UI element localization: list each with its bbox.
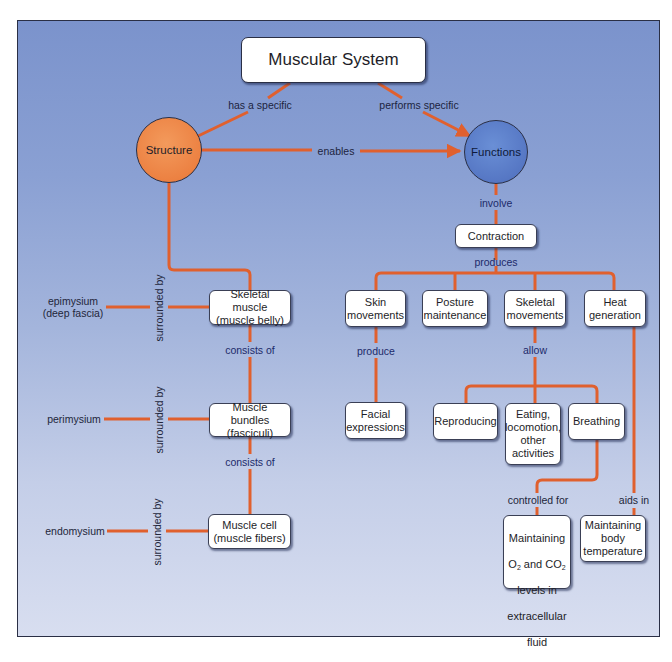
skin-movements-node: Skin movements bbox=[345, 290, 406, 327]
maintaining-o2-line5: fluid bbox=[507, 636, 567, 649]
link-label-surrounded-by-3: surrounded by bbox=[151, 492, 163, 572]
maintaining-o2-line3: levels in bbox=[507, 584, 567, 597]
link-label-allow: allow bbox=[517, 344, 553, 356]
link-label-has-a-specific: has a specific bbox=[205, 99, 315, 111]
muscle-bundles-node: Muscle bundles (fasciculi) bbox=[209, 403, 291, 437]
link-label-aids-in: aids in bbox=[612, 494, 656, 506]
maintaining-o2-co2-node: Maintaining O2 and CO2 levels in extrace… bbox=[503, 515, 571, 589]
functions-node: Functions bbox=[464, 120, 528, 184]
skeletal-movements-node: Skeletal movements bbox=[504, 290, 566, 327]
contraction-node: Contraction bbox=[455, 224, 537, 248]
maintaining-body-temperature-node: Maintaining body temperature bbox=[580, 515, 646, 562]
maintaining-o2-line4: extracellular bbox=[507, 610, 567, 623]
link-label-consists-of-1: consists of bbox=[220, 344, 280, 356]
breathing-node: Breathing bbox=[568, 403, 625, 440]
link-label-consists-of-2: consists of bbox=[220, 456, 280, 468]
facial-expressions-node: Facial expressions bbox=[345, 402, 406, 439]
link-label-produces: produces bbox=[466, 256, 526, 268]
eating-locomotion-node: Eating, locomotion, other activities bbox=[505, 403, 561, 465]
reproducing-node: Reproducing bbox=[433, 403, 498, 440]
maintaining-o2-line2: O2 and CO2 bbox=[507, 558, 567, 571]
muscle-cell-node: Muscle cell (muscle fibers) bbox=[208, 514, 291, 549]
link-label-produce: produce bbox=[350, 345, 402, 357]
endomysium-label: endomysium bbox=[44, 525, 106, 537]
maintaining-o2-line1: Maintaining bbox=[507, 532, 567, 545]
skeletal-muscle-node: Skeletal muscle (muscle belly) bbox=[209, 290, 291, 325]
link-label-enables: enables bbox=[312, 145, 360, 157]
perimysium-label: perimysium bbox=[44, 413, 104, 425]
link-label-performs-specific: performs specific bbox=[364, 99, 474, 111]
muscular-system-node: Muscular System bbox=[241, 37, 426, 83]
posture-maintenance-node: Posture maintenance bbox=[422, 290, 488, 327]
link-label-surrounded-by-2: surrounded by bbox=[153, 380, 165, 460]
heat-generation-node: Heat generation bbox=[584, 290, 646, 327]
link-label-controlled-for: controlled for bbox=[500, 494, 576, 506]
epimysium-label: epimysium (deep fascia) bbox=[40, 295, 106, 319]
structure-node: Structure bbox=[136, 117, 202, 183]
link-label-involve: involve bbox=[470, 197, 522, 209]
link-label-surrounded-by-1: surrounded by bbox=[153, 268, 165, 348]
